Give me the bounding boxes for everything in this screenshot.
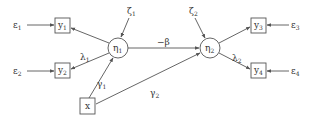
edge-zeta1-eta1	[121, 18, 129, 37]
label-gamma2: γ2	[150, 88, 159, 99]
edge-eta1-y2	[71, 53, 109, 69]
label-lambda1: λ1	[80, 52, 90, 63]
label-lambda2: λ2	[232, 53, 242, 64]
label-gamma1: γ1	[97, 79, 106, 90]
label-zeta1: ζ1	[127, 6, 136, 17]
label-x: x	[85, 101, 90, 111]
label-eps4: ε4	[291, 66, 300, 77]
label-eps2: ε2	[13, 66, 22, 77]
label-eps1: ε1	[13, 20, 22, 31]
path-diagram: ε1 ε2 ε3 ε4 y1 y2 y3 y4 x η1 η2 ζ1 ζ2 −β…	[0, 0, 318, 126]
label-eps3: ε3	[291, 20, 300, 31]
label-beta: −β	[157, 37, 170, 47]
edge-eta1-y1	[71, 28, 109, 43]
edge-zeta2-eta2	[195, 18, 205, 38]
edge-eta2-y3	[219, 27, 250, 43]
observed-nodes	[55, 18, 266, 114]
label-zeta2: ζ2	[189, 6, 198, 17]
edge-x-eta1	[89, 58, 113, 98]
